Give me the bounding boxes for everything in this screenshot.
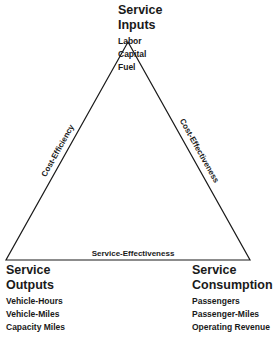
node-item: Capital bbox=[118, 48, 162, 61]
node-title: Inputs bbox=[118, 18, 162, 33]
node-service-inputs: Service Inputs Labor Capital Fuel bbox=[118, 3, 162, 74]
node-item: Passengers bbox=[192, 295, 273, 308]
edge-label-cost-effectiveness: Cost-Effectiveness bbox=[178, 117, 221, 185]
node-item: Vehicle-Miles bbox=[6, 308, 65, 321]
edge-label-service-effectiveness: Service-Effectiveness bbox=[92, 249, 175, 258]
node-item: Operating Revenue bbox=[192, 321, 273, 334]
node-item: Passenger-Miles bbox=[192, 308, 273, 321]
node-service-outputs: Service Outputs Vehicle-Hours Vehicle-Mi… bbox=[6, 263, 65, 334]
node-title: Service bbox=[118, 3, 162, 18]
node-title: Consumption bbox=[192, 278, 273, 293]
node-title: Service bbox=[192, 263, 273, 278]
node-item: Labor bbox=[118, 35, 162, 48]
node-item: Capacity Miles bbox=[6, 321, 65, 334]
node-item: Vehicle-Hours bbox=[6, 295, 65, 308]
node-title: Outputs bbox=[6, 278, 65, 293]
node-title: Service bbox=[6, 263, 65, 278]
edge-label-cost-efficiency: Cost-Efficiency bbox=[40, 123, 77, 179]
node-item: Fuel bbox=[118, 61, 162, 74]
node-service-consumption: Service Consumption Passengers Passenger… bbox=[192, 263, 273, 334]
triangle-outline bbox=[6, 42, 250, 260]
